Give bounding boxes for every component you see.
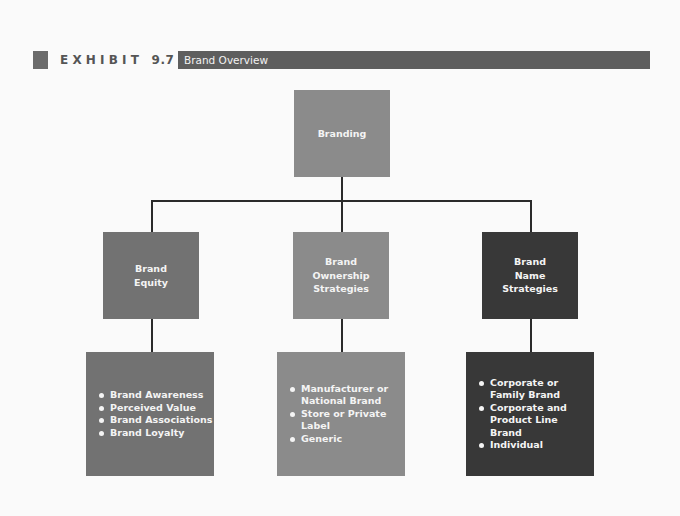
- exhibit-number: 9.7: [152, 53, 175, 67]
- list-item: Store or Private Label: [289, 408, 389, 433]
- list-item: Corporate and Product Line Brand: [478, 402, 590, 440]
- brand-name-list: Corporate or Family Brand Corporate and …: [478, 377, 590, 452]
- brand-name-strategies-node: Brand Name Strategies: [482, 232, 578, 319]
- list-item: Brand Associations: [98, 414, 212, 427]
- brand-ownership-list-box: Manufacturer or National Brand Store or …: [277, 352, 405, 476]
- exhibit-title: Brand Overview: [184, 54, 268, 66]
- brand-equity-list: Brand Awareness Perceived Value Brand As…: [98, 389, 212, 439]
- connector-root-down: [341, 177, 343, 201]
- node-title-line: Name: [502, 269, 558, 283]
- branding-label: Branding: [318, 127, 367, 141]
- connector-to-name: [530, 200, 532, 232]
- brand-ownership-strategies-node: Brand Ownership Strategies: [293, 232, 389, 319]
- list-item: Brand Awareness: [98, 389, 212, 402]
- connector-to-ownership: [341, 200, 343, 232]
- node-title-line: Strategies: [502, 282, 558, 296]
- node-title-line: Equity: [134, 276, 168, 290]
- connector-equity-down: [151, 319, 153, 352]
- node-title-line: Ownership: [312, 269, 369, 283]
- list-item: Brand Loyalty: [98, 427, 212, 440]
- list-item: Generic: [289, 433, 389, 446]
- node-title-line: Brand: [502, 255, 558, 269]
- node-title-line: Strategies: [312, 282, 369, 296]
- exhibit-word: EXHIBIT: [60, 53, 143, 67]
- exhibit-label: EXHIBIT 9.7: [60, 51, 174, 69]
- connector-name-down: [530, 319, 532, 352]
- list-item: Corporate or Family Brand: [478, 377, 590, 402]
- connector-to-equity: [151, 200, 153, 232]
- node-title-line: Brand: [134, 262, 168, 276]
- list-item: Manufacturer or National Brand: [289, 383, 389, 408]
- brand-equity-list-box: Brand Awareness Perceived Value Brand As…: [86, 352, 214, 476]
- node-title-line: Brand: [312, 255, 369, 269]
- connector-ownership-down: [341, 319, 343, 352]
- branding-node: Branding: [294, 90, 390, 177]
- exhibit-marker: [33, 51, 48, 69]
- list-item: Individual: [478, 439, 590, 452]
- brand-equity-node: Brand Equity: [103, 232, 199, 319]
- list-item: Perceived Value: [98, 402, 212, 415]
- brand-name-list-box: Corporate or Family Brand Corporate and …: [466, 352, 594, 476]
- exhibit-title-bar: Brand Overview: [178, 51, 650, 69]
- brand-ownership-list: Manufacturer or National Brand Store or …: [289, 383, 389, 446]
